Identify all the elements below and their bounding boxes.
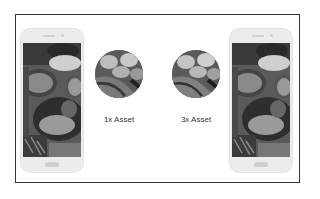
home-button-icon [45, 162, 59, 167]
asset-1x-circle [95, 50, 143, 98]
asset-1x-label: 1x Asset [89, 115, 149, 124]
right-phone [230, 29, 292, 172]
phone-screen-image [23, 43, 81, 157]
speaker-icon [252, 35, 264, 37]
home-button-icon [254, 162, 268, 167]
asset-3x-label: 3x Asset [166, 115, 226, 124]
speaker-icon [43, 35, 55, 37]
asset-3x-circle [172, 50, 220, 98]
camera-icon [270, 34, 273, 37]
phone-screen-image [232, 43, 290, 157]
camera-icon [61, 34, 64, 37]
left-phone [21, 29, 83, 172]
